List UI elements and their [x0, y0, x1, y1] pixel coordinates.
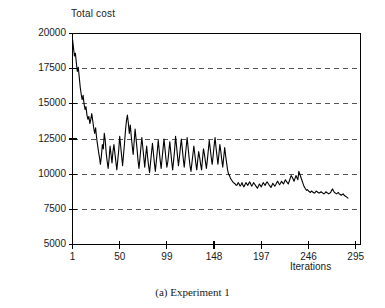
y-axis-tick-label: 17500	[14, 62, 66, 73]
x-axis-tick-label: 50	[100, 251, 140, 262]
y-axis-tick-label: 5000	[14, 238, 66, 249]
figure-caption: (a) Experiment 1	[0, 286, 385, 298]
figure-container: Total cost Iterations (a) Experiment 1 5…	[0, 0, 385, 308]
x-axis-label: Iterations	[290, 261, 331, 272]
y-axis-tick-label: 7500	[14, 203, 66, 214]
y-axis-tick-label: 10000	[14, 168, 66, 179]
x-axis-tick-label: 246	[288, 251, 328, 262]
y-axis-tick-label: 12500	[14, 133, 66, 144]
x-axis-tick-label: 148	[194, 251, 234, 262]
x-axis-tick-label: 197	[241, 251, 281, 262]
chart-title-total-cost: Total cost	[71, 8, 115, 19]
x-axis-tick-label: 295	[336, 251, 376, 262]
y-axis-tick-label: 15000	[14, 97, 66, 108]
x-axis-tick-label: 99	[147, 251, 187, 262]
x-axis-tick-label: 1	[53, 251, 93, 262]
y-axis-tick-label: 20000	[14, 27, 66, 38]
